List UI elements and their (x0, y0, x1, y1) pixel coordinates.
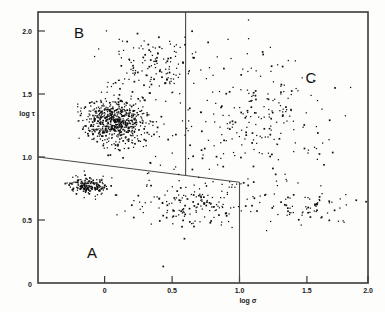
y-tick-labels: 0.5 1.0 1.5 2.0 0 (22, 28, 32, 289)
x-tick-label: 0 (103, 287, 107, 294)
x-tick-label: 1.0 (235, 287, 245, 294)
y-tick-label: 0.5 (22, 217, 32, 224)
region-dividers (38, 12, 240, 283)
region-label-a: A (87, 244, 97, 261)
x-tick-labels: 0 0.5 1.0 1.5 2.0 (103, 287, 373, 294)
x-tick-label: 2.0 (363, 287, 373, 294)
y-axis-ticks (38, 31, 45, 220)
plot-canvas: 0 0.5 1.0 1.5 2.0 0.5 1.0 1.5 2.0 0 log … (0, 0, 385, 312)
scatter-points (64, 19, 366, 267)
region-label-c: C (306, 69, 317, 86)
x-axis-title: log σ (239, 297, 256, 305)
x-tick-label: 1.5 (302, 287, 312, 294)
y-tick-label: 1.5 (22, 91, 32, 98)
y-axis-title: log τ (19, 110, 35, 118)
origin-label: 0 (28, 281, 32, 288)
x-tick-label: 0.5 (167, 287, 177, 294)
y-tick-label: 1.0 (22, 154, 32, 161)
x-axis-ticks (105, 276, 368, 283)
y-tick-label: 2.0 (22, 28, 32, 35)
region-label-b: B (74, 24, 84, 41)
plot-frame (38, 12, 368, 283)
scatter-plot-figure: 0 0.5 1.0 1.5 2.0 0.5 1.0 1.5 2.0 0 log … (0, 0, 385, 312)
frame-rect (38, 12, 368, 283)
